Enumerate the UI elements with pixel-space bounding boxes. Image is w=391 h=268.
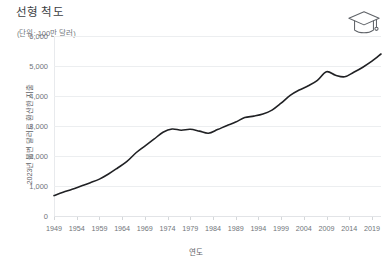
x-axis-tick-mark — [145, 217, 146, 220]
x-axis-tick-mark — [122, 217, 123, 220]
x-axis-tick-mark — [236, 217, 237, 220]
x-axis-tick-label: 1959 — [91, 224, 107, 233]
x-axis-tick-label: 1989 — [228, 224, 244, 233]
x-axis-tick-label: 2014 — [341, 224, 357, 233]
x-axis-tick-mark — [168, 217, 169, 220]
x-axis-tick-label: 1964 — [114, 224, 130, 233]
x-axis-tick-mark — [281, 217, 282, 220]
x-axis-tick-mark — [349, 217, 350, 220]
chart-title: 선형 척도 — [16, 3, 64, 19]
gridline — [54, 216, 381, 217]
y-axis-tick-label: 6,000 — [29, 32, 48, 41]
y-axis-tick-label: 1,000 — [29, 182, 48, 191]
y-axis-tick-label: 4,000 — [29, 92, 48, 101]
x-axis-tick-label: 1984 — [205, 224, 221, 233]
x-axis-tick-label: 1969 — [137, 224, 153, 233]
x-axis-tick-mark — [77, 217, 78, 220]
plot-area — [54, 36, 381, 216]
x-axis-tick-label: 2019 — [364, 224, 380, 233]
x-axis-tick-mark — [190, 217, 191, 220]
x-axis-tick-label: 1954 — [69, 224, 85, 233]
x-axis-tick-mark — [99, 217, 100, 220]
x-axis-tick-label: 1974 — [160, 224, 176, 233]
x-axis-tick-mark — [54, 217, 55, 220]
line-series — [54, 36, 381, 216]
x-axis-tick-mark — [372, 217, 373, 220]
series-line — [54, 54, 381, 196]
chart-root: 선형 척도 (단위: 100만 달러) 2023년 불변 달러로 환산한 지출 … — [0, 0, 391, 268]
x-axis-tick-mark — [258, 217, 259, 220]
x-axis-tick-label: 2004 — [296, 224, 312, 233]
x-axis-tick-label: 2009 — [319, 224, 335, 233]
y-axis-tick-label: 2,000 — [29, 152, 48, 161]
x-axis-tick-label: 1949 — [46, 224, 62, 233]
x-axis-tick-mark — [304, 217, 305, 220]
y-axis-tick-label: 3,000 — [29, 122, 48, 131]
x-axis-tick-label: 1979 — [182, 224, 198, 233]
x-axis-title: 연도 — [0, 246, 391, 257]
x-axis-tick-label: 1999 — [273, 224, 289, 233]
x-axis-tick-label: 1994 — [250, 224, 266, 233]
y-axis-tick-label: 5,000 — [29, 62, 48, 71]
graduation-cap-icon — [345, 6, 383, 40]
x-axis-tick-mark — [213, 217, 214, 220]
y-axis-tick-label: 0 — [44, 212, 48, 221]
x-axis-tick-mark — [327, 217, 328, 220]
